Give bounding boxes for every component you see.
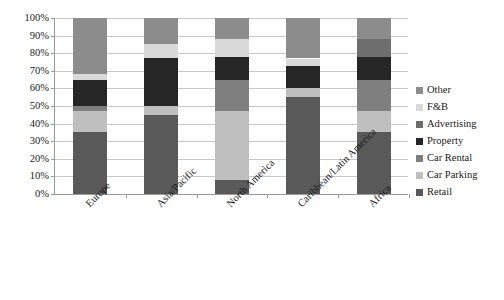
bar-segment[interactable] — [73, 80, 107, 106]
y-axis-tick-label: 10% — [30, 171, 49, 182]
legend-label: Property — [427, 136, 463, 147]
y-axis-tick-label: 80% — [30, 48, 49, 59]
bar-segment[interactable] — [286, 66, 320, 89]
y-axis-tick-label: 20% — [30, 154, 49, 165]
legend-item[interactable]: F&B — [416, 99, 477, 116]
legend-swatch-icon — [416, 121, 423, 128]
stacked-bar[interactable] — [286, 18, 320, 194]
plot-area: 0%10%20%30%40%50%60%70%80%90%100% — [54, 18, 408, 195]
bar-segment[interactable] — [286, 18, 320, 58]
x-axis-tick — [197, 194, 198, 198]
bar-segment[interactable] — [73, 74, 107, 79]
bar-segment[interactable] — [144, 44, 178, 58]
y-axis-tick-label: 0% — [35, 189, 49, 200]
legend-swatch-icon — [416, 155, 423, 162]
bar-segment[interactable] — [286, 97, 320, 194]
bar-segment[interactable] — [73, 111, 107, 132]
bar-segment[interactable] — [215, 80, 249, 112]
stacked-bar-chart: 0%10%20%30%40%50%60%70%80%90%100% Europe… — [0, 0, 504, 300]
bar-segment[interactable] — [286, 59, 320, 66]
bar-segment[interactable] — [215, 57, 249, 80]
legend-swatch-icon — [416, 138, 423, 145]
stacked-bar[interactable] — [73, 18, 107, 194]
legend-item[interactable]: Car Parking — [416, 167, 477, 184]
legend-swatch-icon — [416, 104, 423, 111]
bar-slot — [338, 18, 409, 194]
legend-item[interactable]: Car Rental — [416, 150, 477, 167]
legend-label: Car Rental — [427, 153, 472, 164]
x-axis-tick — [126, 194, 127, 198]
x-axis-tick — [409, 194, 410, 198]
chart-legend: OtherF&BAdvertisingPropertyCar RentalCar… — [416, 82, 477, 201]
y-axis-tick-label: 70% — [30, 66, 49, 77]
legend-label: Retail — [427, 187, 452, 198]
legend-label: Car Parking — [427, 170, 477, 181]
legend-item[interactable]: Other — [416, 82, 477, 99]
bar-segment[interactable] — [357, 80, 391, 112]
y-axis-tick-label: 60% — [30, 83, 49, 94]
bar-segment[interactable] — [357, 39, 391, 57]
y-axis-tick-label: 100% — [25, 13, 50, 24]
legend-item[interactable]: Property — [416, 133, 477, 150]
legend-label: Advertising — [427, 119, 477, 130]
x-axis-tick — [338, 194, 339, 198]
bar-segment[interactable] — [215, 111, 249, 180]
bar-segment[interactable] — [144, 58, 178, 106]
legend-label: F&B — [427, 102, 448, 113]
bar-segment[interactable] — [73, 18, 107, 74]
y-axis-tick-label: 50% — [30, 101, 49, 112]
y-axis-tick — [51, 194, 55, 195]
bar-segment[interactable] — [215, 18, 249, 39]
legend-swatch-icon — [416, 87, 423, 94]
legend-swatch-icon — [416, 172, 423, 179]
y-axis-tick-label: 30% — [30, 136, 49, 147]
stacked-bar[interactable] — [357, 18, 391, 194]
bar-slot — [55, 18, 126, 194]
bar-segment[interactable] — [215, 39, 249, 57]
bar-segment[interactable] — [144, 106, 178, 115]
stacked-bar[interactable] — [144, 18, 178, 194]
legend-swatch-icon — [416, 189, 423, 196]
bar-segment[interactable] — [286, 88, 320, 97]
y-axis-tick-label: 90% — [30, 30, 49, 41]
bar-segment[interactable] — [73, 106, 107, 111]
legend-label: Other — [427, 85, 451, 96]
legend-item[interactable]: Advertising — [416, 116, 477, 133]
bar-slot — [126, 18, 197, 194]
y-axis-tick-label: 40% — [30, 118, 49, 129]
bar-segment[interactable] — [144, 18, 178, 44]
legend-item[interactable]: Retail — [416, 184, 477, 201]
stacked-bar[interactable] — [215, 18, 249, 194]
bar-segment[interactable] — [357, 57, 391, 80]
bar-segment[interactable] — [357, 18, 391, 39]
x-axis-tick — [267, 194, 268, 198]
